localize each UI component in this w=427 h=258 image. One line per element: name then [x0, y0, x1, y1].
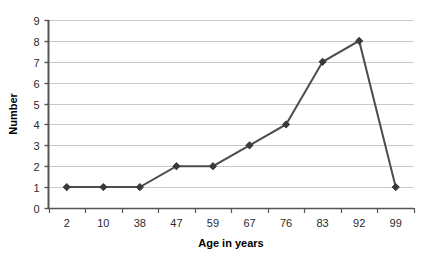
y-tick-label: 2 [33, 161, 39, 173]
x-tick-label: 92 [353, 217, 365, 229]
y-tick-label: 4 [33, 119, 39, 131]
y-tick-label: 7 [33, 57, 39, 69]
y-tick-label: 0 [33, 203, 39, 215]
x-axis-title: Age in years [198, 237, 263, 249]
x-tick-label: 38 [134, 217, 146, 229]
x-tick-label: 67 [243, 217, 255, 229]
x-tick-label: 47 [170, 217, 182, 229]
y-axis-title: Number [7, 93, 19, 135]
x-tick-label: 2 [64, 217, 70, 229]
y-tick-label: 1 [33, 182, 39, 194]
y-tick-label: 8 [33, 36, 39, 48]
x-tick-label: 59 [207, 217, 219, 229]
y-tick-label: 6 [33, 78, 39, 90]
y-tick-label: 9 [33, 15, 39, 27]
x-tick-label: 99 [390, 217, 402, 229]
x-tick-label: 83 [317, 217, 329, 229]
line-chart: 0123456789 2103847596776839299 Age in ye… [0, 0, 427, 258]
x-tick-label: 76 [280, 217, 292, 229]
y-tick-label: 5 [33, 99, 39, 111]
chart-canvas: 0123456789 2103847596776839299 Age in ye… [0, 0, 427, 258]
x-tick-label: 10 [97, 217, 109, 229]
y-tick-label: 3 [33, 140, 39, 152]
